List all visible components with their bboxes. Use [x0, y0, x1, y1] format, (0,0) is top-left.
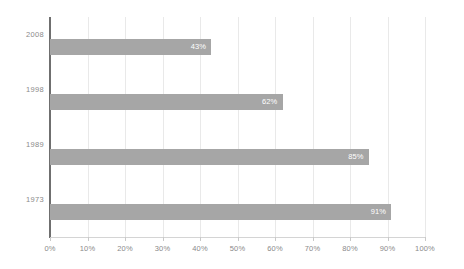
x-axis-tick-label: 50% [230, 244, 246, 253]
x-axis-tick-mark [313, 237, 314, 241]
x-axis-tick-label: 30% [155, 244, 171, 253]
y-axis-category-label: 1973 [4, 195, 44, 204]
y-axis-category-label: 2008 [4, 30, 44, 39]
x-axis-tick-mark [425, 237, 426, 241]
y-axis-category-label: 1989 [4, 140, 44, 149]
x-axis-tick-mark [50, 237, 51, 241]
bar-row: 85% [50, 127, 425, 182]
x-axis-tick-label: 70% [305, 244, 321, 253]
x-axis-tick-mark [350, 237, 351, 241]
gridline [425, 17, 426, 237]
x-axis-tick-mark [88, 237, 89, 241]
x-axis-tick-label: 60% [267, 244, 283, 253]
x-axis-tick-mark [388, 237, 389, 241]
y-axis-category-labels: 2008199819891973 [0, 17, 44, 237]
x-axis-tick-mark [163, 237, 164, 241]
x-axis-tick-mark [200, 237, 201, 241]
x-axis-tick-label: 0% [44, 244, 55, 253]
y-axis-category-label: 1998 [4, 85, 44, 94]
x-axis-tick-label: 90% [380, 244, 396, 253]
x-axis-tick-label: 40% [192, 244, 208, 253]
plot-area: 43%62%85%91% [50, 17, 425, 237]
x-axis-tick-mark [238, 237, 239, 241]
x-axis-tick-label: 80% [342, 244, 358, 253]
bar[interactable]: 43% [50, 39, 211, 55]
x-axis-tick-label: 10% [80, 244, 96, 253]
x-axis-tick-label: 100% [415, 244, 435, 253]
x-axis-tick-mark [125, 237, 126, 241]
x-axis-tick-labels: 0%10%20%30%40%50%60%70%80%90%100% [50, 244, 425, 258]
bar-row: 91% [50, 182, 425, 237]
bar[interactable]: 62% [50, 94, 283, 110]
bar-value-label: 91% [371, 208, 387, 216]
bar-value-label: 62% [262, 98, 278, 106]
bar[interactable]: 85% [50, 149, 369, 165]
bar[interactable]: 91% [50, 204, 391, 220]
bar-value-label: 43% [191, 43, 207, 51]
bar-row: 62% [50, 72, 425, 127]
bar-value-label: 85% [348, 153, 364, 161]
x-axis-tick-label: 20% [117, 244, 133, 253]
bar-chart: 43%62%85%91% 2008199819891973 0%10%20%30… [0, 0, 464, 269]
x-axis-tick-mark [275, 237, 276, 241]
bar-row: 43% [50, 17, 425, 72]
